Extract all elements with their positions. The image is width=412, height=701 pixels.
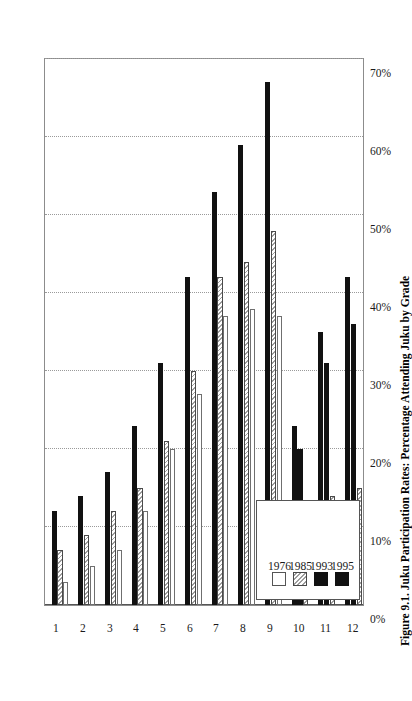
bar-group-grade-8 [232,59,259,605]
bar-1995-grade-1 [52,511,57,605]
category-tick-grade-5: 5 [160,622,166,634]
category-tick-grade-8: 8 [240,622,246,634]
bar-1995-grade-4 [132,426,137,605]
figure-caption-text: Figure 9.1. Juku Participation Rates: Pe… [399,276,412,646]
legend-label-1993: 1993 [310,560,333,572]
bar-1995-grade-3 [105,472,110,605]
bar-1995-grade-8 [238,145,243,605]
figure-caption: Figure 9.1. Juku Participation Rates: Pe… [379,0,405,701]
bar-1976-grade-1 [63,582,68,605]
bar-1976-grade-5 [170,449,175,605]
bar-1985-grade-8 [244,262,249,605]
category-tick-grade-3: 3 [107,622,113,634]
bar-group-grade-3 [98,59,125,605]
category-tick-grade-9: 9 [267,622,273,634]
bar-1995-grade-2 [78,496,83,605]
legend-swatch-1993 [314,572,328,586]
bar-group-grade-2 [72,59,99,605]
category-tick-grade-2: 2 [80,622,86,634]
bar-1995-grade-7 [212,192,217,605]
legend-label-1985: 1985 [289,560,312,572]
category-tick-grade-7: 7 [213,622,219,634]
chart-canvas: 0%10%20%30%40%50%60%70% 123456789101112 … [36,46,372,654]
bar-1995-grade-6 [185,277,190,605]
bar-1985-grade-4 [137,488,142,605]
bar-1995-grade-5 [158,363,163,605]
bar-1985-grade-2 [84,535,89,605]
bar-1976-grade-2 [90,566,95,605]
category-tick-grade-6: 6 [187,622,193,634]
bar-1976-grade-3 [117,550,122,605]
legend-label-1995: 1995 [331,560,354,572]
bar-group-grade-1 [45,59,72,605]
bar-1976-grade-7 [223,316,228,605]
category-tick-grade-4: 4 [133,622,139,634]
legend-swatch-1985 [293,572,307,586]
bar-group-grade-7 [205,59,232,605]
category-tick-grade-1: 1 [53,622,59,634]
legend-swatch-1976 [272,572,286,586]
bar-1985-grade-7 [217,277,222,605]
category-tick-grade-12: 12 [347,622,359,634]
legend-swatch-1995 [335,572,349,586]
category-tick-grade-11: 11 [320,622,331,634]
bar-1976-grade-8 [250,309,255,605]
bar-1985-grade-1 [57,550,62,605]
bar-1976-grade-6 [197,394,202,605]
bar-1976-grade-4 [143,511,148,605]
bar-group-grade-5 [152,59,179,605]
bar-group-grade-4 [125,59,152,605]
bar-1985-grade-3 [111,511,116,605]
legend-label-1976: 1976 [268,560,291,572]
bar-group-grade-6 [178,59,205,605]
bar-1985-grade-5 [164,441,169,605]
bar-1985-grade-6 [191,371,196,605]
category-tick-grade-10: 10 [293,622,305,634]
